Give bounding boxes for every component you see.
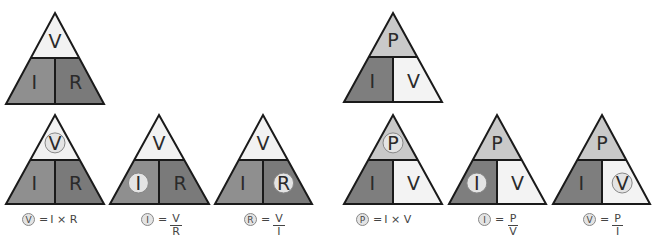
triangle-label-top: P bbox=[596, 132, 607, 154]
formula-triangle-vir-main: VIR bbox=[6, 13, 104, 104]
triangle-label-right: V bbox=[616, 172, 629, 194]
triangle-label-left: I bbox=[32, 172, 38, 194]
formula-expression: I × V bbox=[384, 213, 411, 226]
circled-variable-icon: V bbox=[583, 213, 596, 226]
equals-sign: = bbox=[158, 213, 167, 226]
equals-sign: = bbox=[600, 213, 609, 226]
triangle-left-section bbox=[553, 160, 602, 204]
triangle-label-right: R bbox=[277, 172, 290, 194]
triangle-label-top: V bbox=[257, 132, 270, 154]
fraction: VI bbox=[273, 213, 285, 238]
formula-triangle-piv-solve-p: PIV bbox=[344, 115, 442, 204]
formula-v-eq-piv: V=PI bbox=[583, 213, 623, 238]
equals-sign: = bbox=[373, 213, 382, 226]
fraction: VR bbox=[170, 213, 182, 238]
triangle-label-left: I bbox=[370, 70, 376, 92]
triangle-label-top: P bbox=[491, 132, 502, 154]
triangle-label-right: R bbox=[69, 172, 82, 194]
triangle-left-section bbox=[6, 58, 55, 104]
formula-triangle-vir-solve-v: VIR bbox=[6, 115, 104, 204]
triangle-label-top: V bbox=[49, 132, 62, 154]
formula-triangle-vir-solve-r: VIR bbox=[215, 115, 312, 204]
formula-triangle-piv-solve-v: PIV bbox=[553, 115, 650, 204]
formula-r-eq: R=VI bbox=[244, 213, 285, 238]
formula-p-eq: P=I × V bbox=[356, 213, 411, 226]
fraction-denominator: V bbox=[507, 226, 519, 238]
equals-sign: = bbox=[261, 213, 270, 226]
triangle-label-top: V bbox=[49, 30, 62, 52]
formula-i-eq-piv: I=PV bbox=[478, 213, 519, 238]
triangle-label-left: I bbox=[136, 172, 142, 194]
fraction-denominator: I bbox=[614, 226, 621, 238]
equals-sign: = bbox=[39, 213, 48, 226]
triangle-label-right: V bbox=[407, 172, 420, 194]
formula-triangle-piv-solve-i: PIV bbox=[449, 115, 546, 204]
formula-triangle-piv-main: PIV bbox=[344, 13, 442, 102]
triangle-label-left: I bbox=[370, 172, 376, 194]
circled-variable-icon: V bbox=[22, 213, 35, 226]
triangle-label-right: R bbox=[173, 172, 186, 194]
triangle-label-left: I bbox=[474, 172, 480, 194]
formula-triangle-vir-solve-i: VIR bbox=[110, 115, 209, 204]
triangle-label-right: R bbox=[69, 71, 82, 93]
triangle-left-section bbox=[344, 57, 393, 102]
triangle-label-left: I bbox=[32, 71, 38, 93]
triangle-label-right: V bbox=[511, 172, 524, 194]
triangle-left-section bbox=[215, 160, 263, 204]
formula-v-eq: V=I × R bbox=[22, 213, 77, 226]
equals-sign: = bbox=[495, 213, 504, 226]
triangle-label-top: V bbox=[153, 132, 166, 154]
fraction-denominator: I bbox=[275, 226, 282, 238]
triangle-label-top: P bbox=[387, 132, 398, 154]
triangle-left-section bbox=[344, 160, 393, 204]
formula-expression: I × R bbox=[50, 213, 77, 226]
circled-variable-icon: I bbox=[141, 213, 154, 226]
triangle-label-left: I bbox=[240, 172, 246, 194]
circled-variable-icon: P bbox=[356, 213, 369, 226]
formula-i-eq-vir: I=VR bbox=[141, 213, 182, 238]
fraction-denominator: R bbox=[170, 226, 182, 238]
triangle-label-right: V bbox=[407, 70, 420, 92]
formula-triangles-diagram: VIRPIVVIRVIRVIRPIVPIVPIV bbox=[0, 0, 655, 245]
triangle-label-left: I bbox=[579, 172, 585, 194]
circled-variable-icon: R bbox=[244, 213, 257, 226]
triangle-label-top: P bbox=[387, 29, 398, 51]
fraction: PI bbox=[612, 213, 623, 238]
fraction: PV bbox=[507, 213, 519, 238]
circled-variable-icon: I bbox=[478, 213, 491, 226]
triangle-left-section bbox=[6, 160, 55, 204]
